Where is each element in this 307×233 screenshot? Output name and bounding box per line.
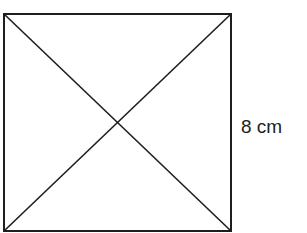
square-diagram: 8 cm	[0, 0, 307, 233]
side-length-label: 8 cm	[241, 116, 282, 138]
